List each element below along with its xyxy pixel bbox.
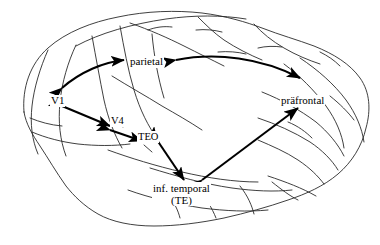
sulcus-dimple-4 [258,46,282,48]
sulcus-central [92,36,122,148]
arrow-parietal-to-praefrontal [176,57,300,78]
sulcus-dimple-1 [148,27,172,30]
region-label-v4: V4 [110,115,125,127]
brain-illustration [0,0,380,245]
tick-teo [144,145,152,152]
sulcus-frontal-arcuate [258,140,324,184]
sulcus-frontal-small-2 [330,96,354,120]
arrow-v1-to-v4 [62,106,110,126]
region-label-inferior-temporal-line2: (TE) [153,194,210,206]
sulcus-arc-mid [112,76,202,130]
sulcus-frontal-small-1 [288,122,312,138]
sulcus-intraparietal [120,26,158,140]
sulcus-superior-3 [198,17,262,60]
region-label-v1: V1 [50,95,65,107]
sulcus-occipital-small [30,118,62,126]
sulcus-frontal-4 [258,118,338,170]
region-label-teo: TEO [137,131,159,143]
sulcus-superior-4 [254,24,320,64]
arrow-v1-to-parietal [62,60,124,88]
arrow-inferior-temporal-to-praefrontal [202,108,298,180]
region-label-parietal: parietal [129,56,164,68]
sulcus-orbital [268,176,316,196]
sulcus-dimple-5 [320,52,340,66]
sulcus-dimple-3 [218,52,246,54]
brain-diagram-figure: parietal V1 V4 TEO inf. temporal (TE) pr… [0,0,380,245]
sulcus-dimple-2 [196,30,222,32]
pathway-arrows-group [62,57,300,180]
region-label-praefrontal: präfrontal [280,95,325,107]
region-label-inferior-temporal-line1: inf. temporal [153,182,210,194]
region-label-inferior-temporal: inf. temporal (TE) [152,182,211,206]
